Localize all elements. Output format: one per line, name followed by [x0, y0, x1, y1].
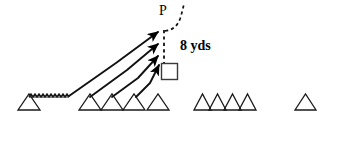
triangle-right-lone-player — [295, 94, 316, 110]
depth-label: 8 yds — [180, 39, 211, 53]
rollout-dashed-curve — [165, 4, 184, 31]
triangle-blocker-2 — [209, 94, 226, 110]
triangle-blocker-3 — [224, 94, 241, 110]
passer-label: P — [159, 4, 167, 18]
triangle-rusher-4 — [147, 94, 169, 110]
triangle-blocker-1 — [194, 94, 211, 110]
rush-arrows-group — [69, 32, 159, 97]
quarterback-box — [162, 64, 178, 80]
rush-arrow-1 — [69, 32, 158, 96]
triangle-rusher-3 — [123, 94, 145, 110]
motion-squiggle-icon — [29, 94, 69, 97]
triangle-group-rushing-line — [79, 94, 169, 110]
play-diagram-canvas: P 8 yds — [0, 0, 337, 150]
triangle-blocker-4 — [239, 94, 256, 110]
play-diagram-svg — [0, 0, 337, 150]
triangle-group-blocking-line — [194, 94, 256, 110]
rush-arrow-4 — [136, 65, 159, 97]
